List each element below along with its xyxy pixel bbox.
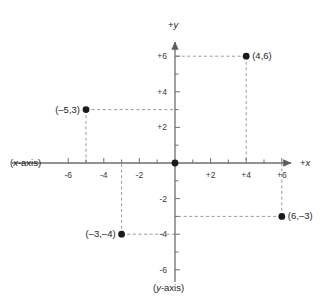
- x-tick-label-4: +4: [241, 171, 251, 180]
- y-positive-direction-label: +y: [168, 20, 178, 30]
- data-point-3: [118, 231, 125, 238]
- axes-group: [12, 42, 291, 282]
- y-tick-label-2: +2: [157, 123, 167, 132]
- x-tick-label--6: -6: [64, 171, 72, 180]
- x-axis-name-label: (x-axis): [10, 158, 41, 168]
- coordinate-plane-figure: -6-4-2+2+4+6-6-4-2+2+4+6(4,6)(–5,3)(6,–3…: [0, 0, 328, 306]
- point-label-1: (–5,3): [55, 105, 80, 115]
- y-tick-label--4: -4: [159, 230, 167, 239]
- x-tick-label--2: -2: [136, 171, 144, 180]
- y-tick-label-4: +4: [157, 88, 167, 97]
- point-label-0: (4,6): [252, 51, 272, 61]
- y-tick-label--2: -2: [159, 194, 167, 203]
- x-positive-direction-label: +x: [300, 158, 310, 168]
- origin-point: [172, 160, 179, 167]
- y-tick-label--6: -6: [159, 266, 167, 275]
- y-tick-label-6: +6: [157, 52, 167, 61]
- coordinate-plane-svg: [0, 0, 328, 306]
- x-tick-label--4: -4: [100, 171, 108, 180]
- data-point-0: [243, 53, 250, 60]
- guide-lines-group: [86, 56, 282, 234]
- x-tick-label-2: +2: [206, 171, 216, 180]
- y-axis-name-label: (y-axis): [153, 283, 184, 293]
- data-point-2: [278, 213, 285, 220]
- point-label-2: (6,–3): [288, 212, 313, 222]
- data-point-1: [83, 106, 90, 113]
- x-tick-label-6: +6: [277, 171, 287, 180]
- point-label-3: (–3,–4): [85, 229, 115, 239]
- data-points-group: [83, 53, 286, 238]
